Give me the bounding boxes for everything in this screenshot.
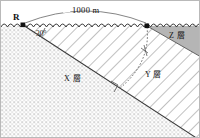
layer-y-label: Y 層 xyxy=(145,71,162,79)
angle-label: 30° xyxy=(36,30,47,38)
cross-section-drawing xyxy=(1,1,200,138)
point-r-label: R xyxy=(13,13,20,22)
point-r-marker xyxy=(21,23,26,28)
layer-x-label: X 層 xyxy=(64,75,81,83)
layer-z-label: Z 層 xyxy=(169,32,185,40)
geological-cross-section-figure: R 1000 m 30° X 層 Y 層 Z 層 xyxy=(0,0,200,138)
distance-label: 1000 m xyxy=(72,6,100,15)
point-right-marker xyxy=(145,24,150,29)
